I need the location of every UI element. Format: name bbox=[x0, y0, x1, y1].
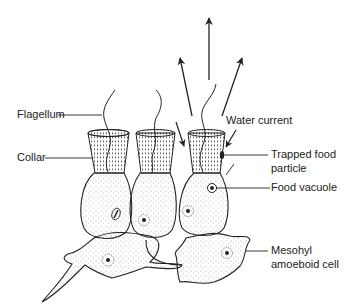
trapped-food-label-line1: Trapped food bbox=[271, 148, 336, 161]
mesohyl-cell-left bbox=[42, 233, 182, 303]
choanocyte-1 bbox=[81, 90, 132, 238]
choanocyte-2 bbox=[130, 90, 176, 238]
collar-label: Collar bbox=[17, 151, 46, 164]
flagellum-label: Flagellum bbox=[17, 108, 65, 121]
water-outflow-arrows bbox=[180, 18, 242, 116]
trapped-food-label-line2: particle bbox=[271, 162, 306, 175]
mesohyl-label-line2: amoeboid cell bbox=[271, 258, 339, 271]
water-current-label: Water current bbox=[226, 114, 292, 127]
mesohyl-label-line1: Mesohyl bbox=[271, 244, 312, 257]
food-vacuole-label: Food vacuole bbox=[271, 181, 337, 194]
trapped-food-particle bbox=[220, 151, 224, 159]
mesohyl-cell-right bbox=[175, 233, 250, 283]
